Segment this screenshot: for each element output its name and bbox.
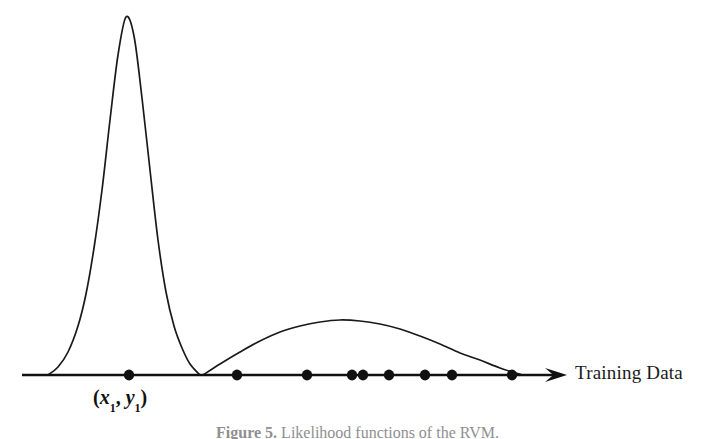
training-data-axis-group: [22, 368, 567, 382]
figure-caption: Figure 5. Likelihood functions of the RV…: [0, 424, 715, 439]
likelihood-curves-group: [48, 16, 522, 375]
training-data-point: [302, 370, 312, 381]
narrow-peaked-likelihood: [48, 16, 200, 375]
figure-caption-text: Likelihood functions of the RVM.: [281, 424, 499, 439]
training-data-point: [420, 370, 430, 381]
figure-caption-number: Figure 5.: [216, 424, 277, 439]
training-data-point: [347, 370, 357, 381]
point-label-y: y: [126, 386, 135, 408]
training-data-point: [358, 370, 368, 381]
broad-flat-likelihood: [203, 320, 522, 375]
training-data-point: [447, 370, 457, 381]
training-data-point: [384, 370, 394, 381]
point-label-close-paren: ): [141, 386, 148, 408]
point-label-open-paren: (: [93, 386, 100, 408]
point-label-x: x: [100, 386, 110, 408]
training-data-point: [507, 370, 517, 381]
point-label-y-subscript: 1: [135, 401, 141, 415]
training-data-point: [124, 370, 134, 381]
axis-label-training-data: Training Data: [575, 362, 683, 384]
first-training-point-label: (x1, y1): [93, 386, 147, 413]
training-data-point: [232, 370, 242, 381]
figure-container: Training Data (x1, y1) Figure 5. Likelih…: [0, 0, 715, 439]
point-label-comma: ,: [116, 386, 126, 408]
point-label-x-subscript: 1: [110, 401, 116, 415]
